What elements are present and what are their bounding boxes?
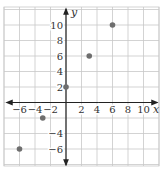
data-point — [40, 115, 46, 121]
x-tick-labels: −6−4−2246810 — [12, 104, 150, 115]
x-tick-label: −6 — [12, 104, 27, 115]
y-tick-label: 6 — [57, 51, 63, 62]
y-tick-label: −6 — [48, 144, 63, 155]
x-tick-label: 4 — [94, 104, 100, 115]
x-tick-label: 2 — [78, 104, 84, 115]
y-tick-label: −4 — [48, 128, 63, 139]
data-point — [110, 22, 116, 28]
y-tick-label: 8 — [57, 35, 63, 46]
grid — [4, 7, 159, 166]
y-tick-label: 2 — [57, 82, 63, 93]
data-point — [86, 53, 92, 59]
coordinate-plane: x y −6−4−2246810 −6−4246810 — [0, 0, 164, 173]
data-point — [63, 84, 69, 90]
x-tick-label: −2 — [43, 104, 58, 115]
x-tick-label: 8 — [125, 104, 131, 115]
y-axis-label: y — [70, 6, 78, 19]
axes: x y — [7, 6, 160, 165]
y-tick-label: 10 — [50, 20, 63, 31]
data-point — [17, 146, 23, 152]
x-tick-label: 10 — [137, 104, 150, 115]
y-tick-label: 4 — [57, 66, 63, 77]
x-tick-label: 6 — [109, 104, 115, 115]
x-axis-label: x — [153, 103, 160, 116]
x-tick-label: −4 — [28, 104, 43, 115]
